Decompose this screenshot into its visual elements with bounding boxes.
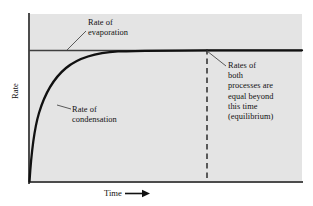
leader-line-equilibrium: [207, 51, 226, 66]
leader-line-evaporation: [67, 31, 86, 50]
annotation-rate-of-evaporation: Rate of evaporation: [88, 18, 128, 37]
figure-rate-vs-time: Rate of evaporation Rate of condensation…: [0, 0, 313, 206]
y-axis-title: Rate: [10, 71, 20, 111]
leader-line-condensation: [57, 105, 71, 109]
annotation-rate-of-condensation: Rate of condensation: [72, 105, 117, 124]
annotation-equilibrium-note: Rates of both processes are equal beyond…: [228, 61, 274, 122]
x-axis-title: Time: [104, 188, 122, 198]
x-axis-title-group: Time: [104, 188, 151, 198]
right-arrow-icon: [125, 189, 151, 198]
